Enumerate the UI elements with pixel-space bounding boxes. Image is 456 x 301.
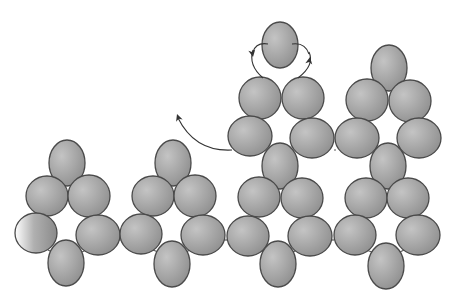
bead	[290, 118, 334, 158]
diagram-canvas	[0, 0, 456, 301]
bead	[288, 216, 332, 256]
arrowhead-icon	[174, 113, 183, 122]
bead	[281, 178, 323, 218]
bead	[368, 243, 404, 289]
bead	[15, 213, 57, 253]
bead	[396, 215, 440, 255]
bead	[282, 77, 324, 119]
bead	[239, 77, 281, 119]
bead	[76, 215, 120, 255]
bead	[262, 22, 298, 68]
bead	[228, 116, 272, 156]
cluster-4	[334, 45, 441, 289]
bead	[238, 177, 280, 217]
bead	[346, 79, 388, 121]
bead-pattern-diagram: Bead weaving pattern diagram	[0, 0, 456, 301]
bead	[68, 175, 110, 217]
arrow-top-left-loop	[248, 49, 263, 78]
bead	[260, 241, 296, 287]
bead	[387, 178, 429, 218]
bead	[389, 80, 431, 122]
bead	[335, 118, 379, 158]
arrow-top-right-loop	[298, 52, 313, 78]
bead	[132, 176, 174, 216]
bead	[120, 214, 162, 254]
bead	[154, 241, 190, 287]
cluster-1	[15, 140, 120, 286]
bead	[181, 215, 225, 255]
cluster-3	[227, 22, 334, 287]
cluster-2	[120, 140, 225, 287]
bead	[48, 240, 84, 286]
bead	[174, 175, 216, 217]
bead	[397, 118, 441, 158]
bead	[26, 176, 68, 216]
bead	[345, 178, 387, 218]
bead	[334, 215, 376, 255]
bead-clusters	[15, 22, 441, 289]
bead	[227, 216, 269, 256]
